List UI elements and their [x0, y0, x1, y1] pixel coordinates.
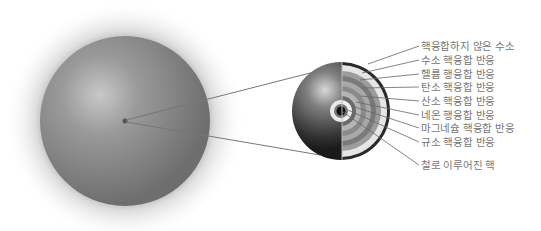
label-neon-fusion: 네온 행융합 반응: [421, 109, 495, 121]
label-carbon-fusion: 탄소 핵융합 반응: [421, 81, 495, 93]
core-point-icon: [123, 119, 128, 124]
label-magnesium-fusion: 마그네슘 핵융합 반응: [421, 122, 514, 134]
label-silicon-fusion: 규소 핵융합 반응: [421, 136, 495, 148]
label-hydrogen-fusion: 수소 핵융합 반응: [421, 54, 495, 66]
star-exterior: [7, 3, 243, 231]
label-unfused-hydrogen: 핵융합하지 않은 수소: [421, 40, 514, 52]
label-oxygen-fusion: 산소 핵융합 반응: [421, 95, 495, 107]
stellar-structure-diagram: 핵융합하지 않은 수소 수소 핵융합 반응 헬륨 행융합 반응 탄소 핵융합 반…: [0, 0, 541, 231]
label-helium-fusion: 헬륨 행융합 반응: [421, 68, 495, 80]
star-cross-section: [292, 62, 390, 160]
label-iron-core: 철로 이루어진 핵: [421, 159, 495, 171]
